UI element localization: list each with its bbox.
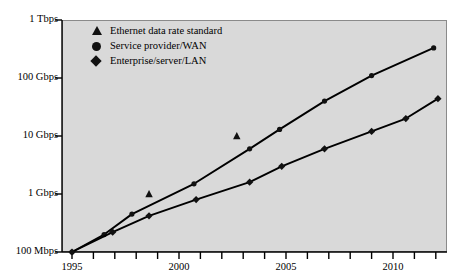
x-axis-tick-label: 1995 [42, 261, 102, 272]
triangle-glyph-icon [92, 26, 102, 35]
data-point-circle [431, 45, 436, 50]
ethernet-data-rate-chart: 1 Tbps100 Gbps10 Gbps1 Gbps100 Mbps 1995… [0, 0, 464, 278]
chart-legend: Ethernet data rate standardService provi… [88, 23, 222, 68]
data-point-diamond [321, 145, 328, 152]
x-axis-tick-label: 2010 [363, 261, 423, 272]
data-point-circle [191, 181, 196, 186]
data-point-circle [247, 146, 252, 151]
y-axis-tick-label: 1 Tbps [0, 14, 58, 24]
data-point-circle [369, 73, 374, 78]
triangle-marker-icon [88, 23, 106, 38]
legend-item: Service provider/WAN [88, 38, 222, 53]
data-point-circle [277, 127, 282, 132]
circle-marker-icon [88, 38, 106, 53]
diamond-glyph-icon [90, 55, 101, 66]
x-axis-tick-label: 2005 [256, 261, 316, 272]
data-point-diamond [278, 163, 285, 170]
y-axis-tick-label: 1 Gbps [0, 188, 58, 198]
y-axis-tick-label: 100 Mbps [0, 246, 58, 256]
series-line [72, 48, 434, 252]
y-axis-tick-label: 100 Gbps [0, 72, 58, 82]
data-point-circle [322, 98, 327, 103]
data-point-circle [129, 212, 134, 217]
legend-label: Ethernet data rate standard [110, 25, 222, 36]
data-point-triangle [233, 132, 240, 139]
data-point-diamond [246, 179, 253, 186]
plot-svg [0, 0, 464, 278]
y-axis-tick-label: 10 Gbps [0, 130, 58, 140]
data-point-triangle [145, 190, 152, 197]
legend-item: Enterprise/server/LAN [88, 53, 222, 68]
series-line [72, 99, 438, 252]
data-point-diamond [68, 248, 75, 255]
legend-label: Enterprise/server/LAN [110, 55, 206, 66]
circle-glyph-icon [92, 42, 101, 51]
legend-item: Ethernet data rate standard [88, 23, 222, 38]
data-point-diamond [368, 128, 375, 135]
data-point-diamond [193, 196, 200, 203]
diamond-marker-icon [88, 53, 106, 68]
data-point-diamond [145, 212, 152, 219]
x-axis-tick-label: 2000 [149, 261, 209, 272]
legend-label: Service provider/WAN [110, 40, 207, 51]
